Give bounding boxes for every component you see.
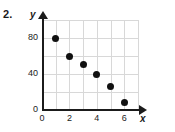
- y-axis-tick-label: 40: [16, 68, 38, 78]
- plot-area: [42, 20, 138, 110]
- y-axis-line: [42, 18, 44, 110]
- data-point: [80, 61, 87, 68]
- x-axis-tick-label: 6: [117, 113, 131, 123]
- gridline-vertical: [124, 20, 125, 110]
- y-axis-arrow-icon: [38, 11, 48, 19]
- data-point: [107, 83, 114, 90]
- data-point: [93, 71, 100, 78]
- gridline-horizontal: [42, 56, 138, 57]
- x-axis-label: x: [140, 113, 146, 124]
- data-point: [121, 99, 128, 106]
- gridline-horizontal: [42, 92, 138, 93]
- x-axis-line: [42, 109, 140, 111]
- gridline-vertical: [69, 20, 70, 110]
- y-axis-tick-label: 80: [16, 32, 38, 42]
- problem-number-label: 2.: [3, 8, 13, 20]
- x-axis-tick-label: 0: [35, 113, 49, 123]
- gridline-vertical: [97, 20, 98, 110]
- x-axis-tick-label: 2: [62, 113, 76, 123]
- data-point: [66, 53, 73, 60]
- gridline-vertical: [56, 20, 57, 110]
- gridline-vertical: [138, 20, 139, 110]
- gridline-vertical: [111, 20, 112, 110]
- gridline-horizontal: [42, 74, 138, 75]
- data-point: [52, 35, 59, 42]
- scatter-plot-figure: 2. y x 04080 0246: [0, 0, 175, 132]
- y-axis-label: y: [30, 9, 36, 20]
- gridline-horizontal: [42, 20, 138, 21]
- x-axis-tick-label: 4: [90, 113, 104, 123]
